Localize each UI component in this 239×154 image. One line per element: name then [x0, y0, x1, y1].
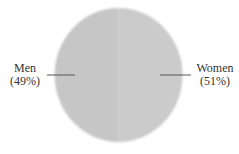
label-men: Men (49%)	[4, 62, 46, 88]
label-women: Women (51%)	[191, 62, 239, 88]
label-women-percent: (51%)	[191, 75, 239, 88]
label-men-percent: (49%)	[4, 75, 46, 88]
